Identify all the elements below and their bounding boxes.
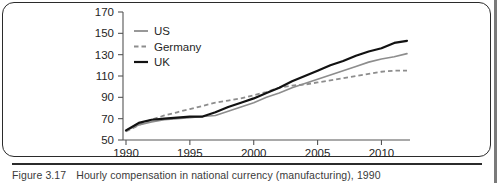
caption-divider — [12, 163, 482, 165]
x-tick-label: 2010 — [369, 147, 395, 159]
y-tick-label: 130 — [95, 49, 114, 61]
x-tick-label: 1995 — [177, 147, 203, 159]
caption-label: Figure 3.17 — [12, 169, 66, 181]
y-tick-label: 110 — [96, 70, 114, 82]
x-axis-ticks: 19901995200020052010 — [113, 140, 394, 159]
series-lines — [126, 41, 407, 132]
legend-label-us: US — [154, 25, 170, 37]
y-tick-label: 170 — [95, 6, 114, 18]
x-tick-label: 2000 — [241, 147, 267, 159]
y-tick-label: 150 — [95, 27, 114, 39]
series-line-germany — [126, 71, 407, 132]
x-tick-label: 2005 — [305, 147, 331, 159]
caption-text: Hourly compensation in national currency… — [76, 169, 380, 181]
legend-label-germany: Germany — [154, 41, 202, 53]
y-tick-label: 90 — [101, 91, 114, 103]
chart-legend: USGermanyUK — [134, 25, 202, 68]
y-tick-label: 70 — [101, 113, 114, 125]
series-line-uk — [126, 41, 407, 131]
y-tick-label: 50 — [101, 134, 114, 146]
figure-caption: Figure 3.17Hourly compensation in nation… — [12, 169, 490, 181]
x-tick-label: 1990 — [113, 147, 139, 159]
y-axis-ticks: 507090110130150170 — [95, 6, 123, 146]
figure-container: 507090110130150170 19901995200020052010 … — [0, 0, 497, 183]
line-chart: 507090110130150170 19901995200020052010 … — [0, 0, 497, 160]
legend-label-uk: UK — [154, 56, 170, 68]
chart-svg: 507090110130150170 19901995200020052010 … — [0, 0, 497, 160]
